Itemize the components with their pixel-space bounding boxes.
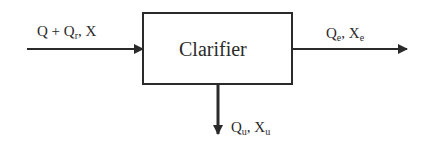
- underflow-label-x: , X: [247, 119, 265, 135]
- effluent-label-x: , X: [341, 25, 359, 41]
- diagram-canvas: [0, 0, 427, 146]
- underflow-label: Qu, Xu: [231, 120, 270, 135]
- effluent-label-x-sub: e: [360, 32, 364, 43]
- effluent-label-q: Q: [326, 25, 337, 41]
- effluent-label: Qe, Xe: [326, 26, 364, 41]
- inflow-label-part2: , X: [78, 23, 96, 39]
- underflow-label-x-sub: u: [265, 126, 270, 137]
- inflow-label: Q + Qr, X: [37, 24, 96, 39]
- clarifier-label: Clarifier: [179, 39, 247, 59]
- inflow-label-part1: Q + Q: [37, 23, 75, 39]
- underflow-label-q: Q: [231, 119, 242, 135]
